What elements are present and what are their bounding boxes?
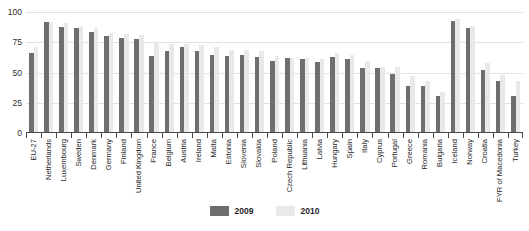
x-axis-label-cell: Denmark	[86, 139, 101, 201]
x-axis-label: Latvia	[316, 139, 324, 159]
x-tick	[162, 133, 177, 138]
bar-group	[192, 11, 207, 132]
x-tick	[222, 133, 237, 138]
x-axis-label: Poland	[271, 139, 279, 163]
bar-2010	[470, 26, 475, 132]
bar-group	[312, 11, 327, 132]
legend-label: 2010	[301, 207, 320, 216]
x-tick	[86, 133, 101, 138]
x-tick	[327, 133, 342, 138]
bar-group	[116, 11, 131, 132]
bar-2010	[214, 47, 219, 132]
bar-group	[418, 11, 433, 132]
x-axis-label-cell: Luxembourg	[56, 139, 71, 201]
x-axis-labels: EU-27NetherlandsLuxembourgSwedenDenmarkG…	[26, 139, 523, 201]
x-axis-label-cell: Iceland	[448, 139, 463, 201]
x-axis-label-cell: Czech Republic	[282, 139, 297, 201]
bar-group	[101, 11, 116, 132]
bar-2010	[49, 22, 54, 132]
x-axis-label-cell: Latvia	[312, 139, 327, 201]
bar-2010	[79, 26, 84, 132]
bar-group	[26, 11, 41, 132]
x-tick	[177, 133, 192, 138]
bar-group	[131, 11, 146, 132]
bar-group	[357, 11, 372, 132]
x-axis-label-cell: Netherlands	[41, 139, 56, 201]
x-axis-label: Austria	[180, 139, 188, 163]
bar-2010	[139, 35, 144, 132]
x-tick	[463, 133, 478, 138]
x-axis-label-cell: FYR of Macedonia	[493, 139, 508, 201]
bar-chart: 0255075100 EU-27NetherlandsLuxembourgSwe…	[0, 0, 529, 231]
x-axis-label: Portugal	[391, 139, 399, 167]
x-axis-label-cell: Austria	[177, 139, 192, 201]
x-tick	[101, 133, 116, 138]
x-tick	[478, 133, 493, 138]
bar-group	[297, 11, 312, 132]
x-axis-label-cell: Croatia	[478, 139, 493, 201]
bar-2010	[320, 59, 325, 132]
bar-group	[478, 11, 493, 132]
bar-group	[222, 11, 237, 132]
x-axis-label-cell: Slovakia	[252, 139, 267, 201]
x-tick	[131, 133, 146, 138]
x-tick	[26, 133, 41, 138]
x-axis-label-cell: Italy	[357, 139, 372, 201]
x-axis-label: Belgium	[165, 139, 173, 166]
x-tick	[192, 133, 207, 138]
x-axis-label-cell: Germany	[101, 139, 116, 201]
x-axis-label: Czech Republic	[286, 139, 294, 192]
bar-group	[282, 11, 297, 132]
x-axis-label: Bulgaria	[436, 139, 444, 167]
x-axis-label: Slovakia	[256, 139, 264, 168]
bar-2010	[229, 50, 234, 132]
x-axis-label-cell: Portugal	[388, 139, 403, 201]
bar-group	[388, 11, 403, 132]
bar-2010	[305, 58, 310, 132]
bar-group	[403, 11, 418, 132]
x-axis-label: Greece	[406, 139, 414, 164]
bar-2010	[109, 33, 114, 132]
bar-groups	[26, 11, 523, 132]
y-tick-label-100: 100	[8, 7, 22, 17]
x-axis-label: Luxembourg	[60, 139, 68, 181]
x-axis-ticks	[26, 133, 523, 138]
x-axis-label: Cyprus	[376, 139, 384, 163]
bar-group	[86, 11, 101, 132]
x-axis-label-cell: EU-27	[26, 139, 41, 201]
x-tick	[116, 133, 131, 138]
x-axis-label: FYR of Macedonia	[497, 139, 505, 202]
x-axis-label: Hungary	[331, 139, 339, 168]
x-tick	[388, 133, 403, 138]
bar-2010	[64, 23, 69, 132]
x-axis-label-cell: Romania	[418, 139, 433, 201]
y-tick-label-75: 75	[13, 37, 22, 47]
legend-item-2010[interactable]: 2010	[276, 206, 320, 216]
y-tick-label-0: 0	[17, 128, 22, 138]
x-tick	[403, 133, 418, 138]
x-axis-label: Sweden	[75, 139, 83, 166]
x-axis-label: Netherlands	[45, 139, 53, 180]
x-axis-label: EU-27	[30, 139, 38, 161]
x-axis-label: United Kingdom	[135, 139, 143, 193]
legend-item-2009[interactable]: 2009	[210, 206, 254, 216]
bar-2010	[410, 76, 415, 132]
bar-group	[147, 11, 162, 132]
bar-2010	[184, 44, 189, 132]
x-axis-label: Estonia	[226, 139, 234, 164]
x-tick	[237, 133, 252, 138]
bar-group	[237, 11, 252, 132]
x-axis-label-cell: Finland	[116, 139, 131, 201]
bar-2010	[124, 34, 129, 132]
bar-group	[207, 11, 222, 132]
x-axis-label: Malta	[210, 139, 218, 158]
bar-group	[372, 11, 387, 132]
bar-2010	[500, 75, 505, 132]
x-axis-label-cell: Poland	[267, 139, 282, 201]
x-axis-label: France	[150, 139, 158, 163]
legend-label: 2009	[235, 207, 254, 216]
x-axis-label-cell: Turkey	[508, 139, 523, 201]
x-axis-label-cell: Hungary	[327, 139, 342, 201]
x-axis-label: Turkey	[512, 139, 520, 162]
bar-group	[493, 11, 508, 132]
